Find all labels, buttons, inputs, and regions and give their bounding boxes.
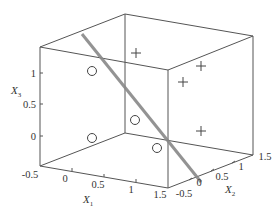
data-point-plus (196, 126, 206, 136)
z-tick-label: 1 (31, 68, 36, 79)
decision-boundary (82, 34, 201, 182)
x2-axis: -0.5 0 0.5 1 1.5 X2 (176, 151, 272, 199)
data-point-plus (196, 61, 206, 71)
z-tick-label: 0 (31, 131, 36, 142)
data-point-plus (131, 48, 141, 58)
data-point-circle (88, 134, 97, 143)
x1-tick-label: -0.5 (22, 169, 39, 180)
x2-tick-label: -0.5 (176, 188, 193, 199)
chart-3d-scatter: 1 0.5 0 X3 -0.5 0 0.5 1 1.5 X1 -0.5 0 0.… (0, 0, 277, 209)
x1-axis: -0.5 0 0.5 1 1.5 X1 (22, 168, 167, 208)
x2-tick-label: 1 (238, 161, 243, 172)
x1-tick-label: 0 (62, 173, 67, 184)
x1-axis-label: X1 (82, 193, 94, 208)
data-point-circle (131, 116, 140, 125)
x2-tick-label: 1.5 (258, 151, 271, 162)
x1-tick-label: 1.5 (153, 189, 166, 200)
plot-canvas: 1 0.5 0 X3 -0.5 0 0.5 1 1.5 X1 -0.5 0 0.… (0, 0, 277, 209)
data-point-circle (88, 67, 97, 76)
z-tick-label: 0.5 (23, 99, 36, 110)
x1-tick-label: 1 (128, 184, 133, 195)
x2-axis-label: X2 (224, 183, 236, 198)
z-axis-label: X3 (10, 84, 22, 99)
z-axis: 1 0.5 0 X3 (10, 68, 43, 142)
x2-tick-label: 0.5 (215, 171, 228, 182)
x2-tick-label: 0 (196, 177, 201, 188)
data-point-circle (153, 144, 162, 153)
data-point-plus (178, 77, 188, 87)
x1-tick-label: 0.5 (91, 179, 104, 190)
box-frame (40, 14, 253, 188)
